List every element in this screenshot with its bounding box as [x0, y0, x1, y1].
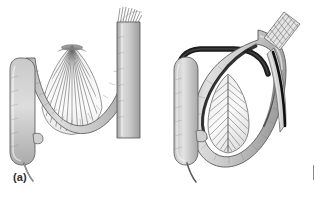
page-edge-tick-mark — [313, 165, 314, 180]
panel-a-label: (a) — [13, 172, 27, 183]
descending-colon-column — [117, 22, 140, 138]
panel-a: (a) — [0, 0, 160, 197]
panel-b-illustration — [160, 0, 321, 197]
panel-b: (b) — [160, 0, 321, 197]
panel-a-illustration — [0, 0, 160, 197]
figure-container: (a) — [0, 0, 321, 197]
